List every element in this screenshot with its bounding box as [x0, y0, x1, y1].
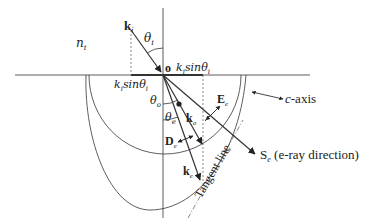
theta-i-label: θi — [144, 31, 154, 47]
k-o-polarization-arrow — [205, 116, 209, 121]
d-field-label: De — [165, 134, 177, 150]
e-ray-direction-label: Se (e-ray direction) — [260, 147, 359, 164]
tangent-line-label: Tangent line — [191, 142, 233, 201]
e-field-label: Ee — [217, 92, 228, 108]
birefringence-diagram: ni ki θi o kisinθi kisinθi θo θe Ee ko D… — [0, 0, 370, 224]
theta-o-label: θo — [150, 94, 161, 109]
c-axis-arrow — [252, 92, 283, 99]
c-axis-label: c-axis — [285, 91, 316, 106]
origin-label: o — [165, 61, 171, 75]
d-field-vector — [178, 136, 193, 142]
k-i-sin-theta-top-label: kisinθi — [176, 61, 210, 76]
theta-e-label: θe — [165, 111, 176, 126]
k-e-label: ke — [183, 164, 193, 180]
k-i-sin-theta-left-label: kisinθi — [114, 78, 148, 93]
medium-label: ni — [76, 36, 87, 52]
theta-i-arc — [147, 48, 163, 53]
k-o-label: ko — [186, 111, 197, 127]
theta-o-arc — [163, 100, 178, 104]
polarization-dot — [176, 101, 181, 106]
k-i-label: ki — [124, 18, 133, 35]
